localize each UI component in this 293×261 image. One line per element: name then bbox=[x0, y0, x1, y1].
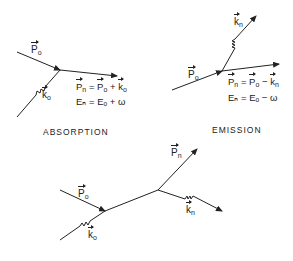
emission-kn-label: kn bbox=[234, 17, 243, 28]
emission-caption: EMISSION bbox=[212, 126, 262, 135]
absorption-caption: ABSORPTION bbox=[43, 128, 109, 137]
emission-p0-label: Po bbox=[188, 70, 199, 81]
absorption-outgoing-particle-line bbox=[60, 70, 117, 76]
feynman-diagram-figure: Po ko Pn = Po + ko Eₙ = Eₒ + ω ABSORPTIO… bbox=[0, 0, 293, 261]
emission-outgoing-particle-line bbox=[222, 64, 279, 71]
absorption-p0-label: Po bbox=[31, 45, 42, 56]
scattering-k0-label: ko bbox=[88, 230, 97, 241]
scattering-pn-label: Pn bbox=[171, 148, 182, 159]
scattering-kn-label: kn bbox=[186, 205, 195, 216]
scattering-incoming-photon-line bbox=[60, 211, 105, 240]
emission-energy-equation: Eₙ = Eₒ − ω bbox=[228, 93, 277, 103]
emission-momentum-equation: Pn = Po − kn bbox=[228, 77, 279, 88]
absorption-energy-equation: Eₙ = Eₒ + ω bbox=[76, 97, 125, 107]
absorption-photon-line bbox=[17, 70, 60, 117]
scattering-p0-label: Po bbox=[78, 189, 89, 200]
absorption-k0-label: ko bbox=[42, 90, 51, 101]
absorption-momentum-equation: Pn = Po + ko bbox=[76, 82, 127, 93]
scattering-internal-line bbox=[105, 190, 158, 211]
